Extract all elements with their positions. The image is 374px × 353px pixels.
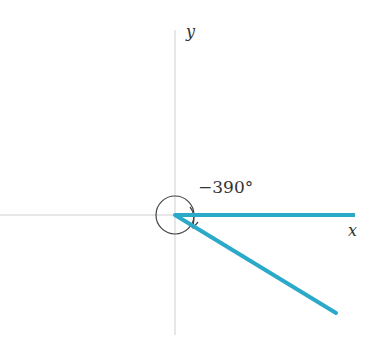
x-axis-label: x xyxy=(348,221,357,240)
terminal-ray xyxy=(175,215,336,313)
angle-label: −390° xyxy=(198,177,253,197)
angle-diagram: y x −390° xyxy=(0,0,374,353)
y-axis-label: y xyxy=(185,22,196,41)
